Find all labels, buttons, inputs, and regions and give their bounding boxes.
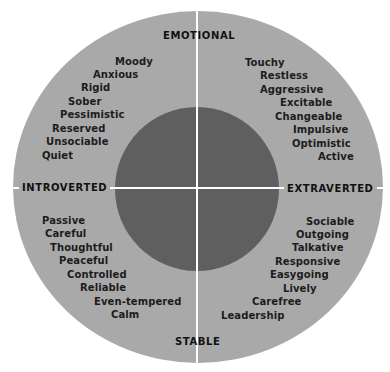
trait-responsive: Responsive	[275, 256, 340, 268]
trait-excitable: Excitable	[280, 97, 332, 109]
trait-sober: Sober	[68, 96, 101, 108]
trait-passive: Passive	[42, 215, 85, 227]
trait-restless: Restless	[260, 70, 308, 82]
axis-label-extraverted: EXTRAVERTED	[284, 183, 377, 195]
trait-lively: Lively	[283, 283, 317, 295]
trait-pessimistic: Pessimistic	[60, 109, 124, 121]
trait-unsociable: Unsociable	[46, 136, 109, 148]
axis-label-emotional: EMOTIONAL	[160, 30, 238, 42]
trait-careful: Careful	[45, 228, 86, 240]
trait-active: Active	[318, 151, 354, 163]
trait-thoughtful: Thoughtful	[50, 242, 113, 254]
trait-peaceful: Peaceful	[59, 255, 108, 267]
trait-reserved: Reserved	[52, 123, 105, 135]
trait-carefree: Carefree	[252, 296, 301, 308]
trait-impulsive: Impulsive	[293, 124, 348, 136]
trait-easygoing: Easygoing	[270, 269, 329, 281]
trait-changeable: Changeable	[275, 111, 342, 123]
axis-label-introverted: INTROVERTED	[19, 182, 110, 194]
trait-calm: Calm	[111, 309, 139, 321]
trait-leadership: Leadership	[221, 310, 284, 322]
axis-label-stable: STABLE	[172, 336, 223, 348]
trait-reliable: Reliable	[80, 282, 126, 294]
trait-rigid: Rigid	[81, 82, 110, 94]
trait-talkative: Talkative	[292, 242, 344, 254]
trait-sociable: Sociable	[306, 216, 354, 228]
trait-anxious: Anxious	[93, 69, 138, 81]
trait-optimistic: Optimistic	[292, 138, 351, 150]
trait-touchy: Touchy	[245, 57, 285, 69]
trait-moody: Moody	[115, 56, 153, 68]
trait-outgoing: Outgoing	[296, 229, 349, 241]
trait-controlled: Controlled	[67, 269, 127, 281]
trait-even-tempered: Even-tempered	[94, 296, 182, 308]
personality-circle-diagram: EMOTIONAL INTROVERTED EXTRAVERTED STABLE…	[0, 0, 390, 372]
trait-quiet: Quiet	[42, 150, 73, 162]
trait-aggressive: Aggressive	[260, 84, 323, 96]
